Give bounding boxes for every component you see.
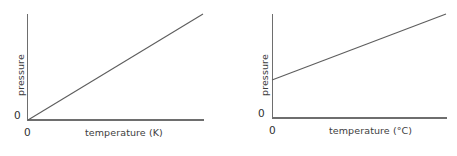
left-x-axis-origin-tick: 0: [24, 127, 31, 138]
pressure-vs-kelvin-chart: pressure 0 0 temperature (K): [0, 0, 228, 156]
left-x-axis-label: temperature (K): [85, 128, 163, 138]
right-x-axis-origin-tick: 0: [269, 125, 276, 136]
right-y-axis-label: pressure: [260, 54, 270, 96]
two-panel-pressure-temperature-figure: pressure 0 0 temperature (K) pressure 0 …: [0, 0, 457, 156]
left-data-line: [28, 14, 203, 120]
left-y-axis-label: pressure: [16, 54, 26, 96]
right-x-axis-label: temperature (°C): [329, 126, 412, 136]
right-y-axis-origin-tick: 0: [258, 108, 265, 119]
left-y-axis-origin-tick: 0: [14, 110, 21, 121]
pressure-vs-celsius-chart: pressure 0 0 temperature (°C): [228, 0, 457, 156]
right-data-line: [272, 14, 446, 80]
